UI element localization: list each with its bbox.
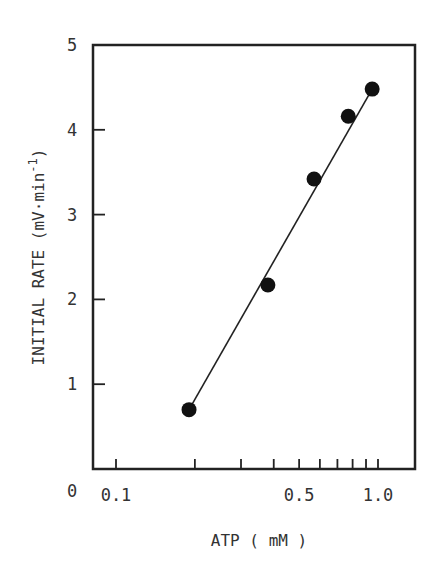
y-tick-label: 4 <box>67 120 77 140</box>
y-axis-title-main: INITIAL RATE (mV·min <box>29 173 48 366</box>
data-point <box>307 171 322 186</box>
x-tick-label: 1.0 <box>363 485 394 505</box>
y-axis-title-sup: -1 <box>26 158 40 172</box>
data-point <box>341 109 356 124</box>
y-tick-label: 0 <box>67 481 77 501</box>
y-axis-title: INITIAL RATE (mV·min-1) <box>26 149 48 366</box>
y-tick-label: 1 <box>67 374 77 394</box>
x-axis-ticks <box>116 459 378 469</box>
x-tick-label: 0.1 <box>101 485 132 505</box>
y-tick-label: 3 <box>67 205 77 225</box>
chart: 0.10.51.0 012345 ATP ( mM ) INITIAL RATE… <box>0 0 446 575</box>
y-tick-label: 5 <box>67 35 77 55</box>
x-axis-tick-labels: 0.10.51.0 <box>101 485 394 505</box>
x-axis-title: ATP ( mM ) <box>211 531 307 550</box>
y-axis-tick-labels: 012345 <box>67 35 77 501</box>
data-point <box>260 277 275 292</box>
y-tick-label: 2 <box>67 289 77 309</box>
data-point <box>365 82 380 97</box>
fit-line <box>189 89 372 410</box>
x-tick-label: 0.5 <box>284 485 315 505</box>
regression-line <box>189 89 372 410</box>
data-point <box>182 402 197 417</box>
y-axis-ticks <box>93 130 105 384</box>
y-axis-title-close: ) <box>29 149 48 159</box>
plot-frame <box>93 45 415 469</box>
